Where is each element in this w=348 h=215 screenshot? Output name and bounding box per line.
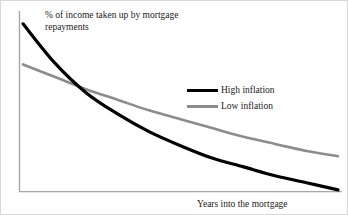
y-axis-label: % of income taken up by mortgage repayme… — [45, 9, 203, 33]
legend-item-low-inflation: Low inflation — [187, 98, 337, 114]
legend-line-swatch-icon — [187, 89, 218, 92]
chart-figure: % of income taken up by mortgage repayme… — [0, 0, 348, 215]
legend-item-high-inflation: High inflation — [187, 82, 337, 98]
legend: High inflation Low inflation — [187, 82, 337, 114]
legend-label-high-inflation: High inflation — [221, 85, 275, 95]
legend-label-low-inflation: Low inflation — [221, 101, 273, 111]
legend-line-swatch-icon — [187, 105, 218, 108]
x-axis-label: Years into the mortgage — [197, 198, 347, 210]
